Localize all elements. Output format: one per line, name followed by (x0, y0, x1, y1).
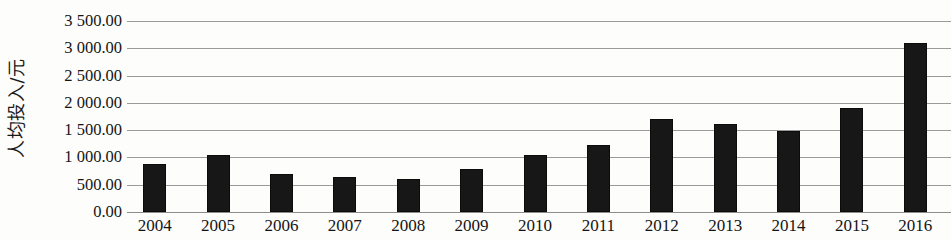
gridline (127, 21, 951, 22)
bar (650, 119, 673, 212)
bar (714, 124, 737, 212)
x-tick-label: 2014 (772, 215, 806, 237)
bar (904, 43, 927, 212)
bar (524, 155, 547, 212)
y-tick-label: 3 500.00 (26, 13, 122, 30)
bar (777, 131, 800, 212)
x-tick-label: 2005 (201, 215, 235, 237)
y-tick-label: 0.00 (26, 204, 122, 221)
bar (460, 169, 483, 212)
bar (143, 164, 166, 212)
x-tick-label: 2011 (582, 215, 615, 237)
gridline (127, 130, 951, 131)
x-tick-label: 2013 (708, 215, 742, 237)
y-axis-title-text: 人均投入/元 (2, 58, 28, 157)
y-tick-label: 2 000.00 (26, 95, 122, 112)
x-tick-label: 2015 (835, 215, 869, 237)
gridline (127, 76, 951, 77)
x-tick-label: 2010 (518, 215, 552, 237)
plot-area (127, 0, 951, 215)
gridline (127, 103, 951, 104)
y-axis-tick-labels: 0.00500.001 000.001 500.002 000.002 500.… (26, 0, 122, 215)
y-tick-label: 500.00 (26, 176, 122, 193)
x-axis-tick-labels: 2004200520062007200820092010201120122013… (127, 213, 951, 240)
x-tick-label: 2009 (455, 215, 489, 237)
x-tick-label: 2006 (264, 215, 298, 237)
bar (587, 145, 610, 212)
bar (333, 177, 356, 212)
y-tick-label: 1 500.00 (26, 122, 122, 139)
x-tick-label: 2004 (138, 215, 172, 237)
bar (397, 179, 420, 212)
y-tick-label: 1 000.00 (26, 149, 122, 166)
bar (270, 174, 293, 212)
gridline (127, 48, 951, 49)
y-tick-label: 2 500.00 (26, 67, 122, 84)
x-tick-label: 2016 (898, 215, 932, 237)
x-tick-label: 2008 (391, 215, 425, 237)
bar (207, 155, 230, 212)
x-tick-label: 2007 (328, 215, 362, 237)
bar (840, 108, 863, 212)
y-tick-label: 3 000.00 (26, 40, 122, 57)
x-tick-label: 2012 (645, 215, 679, 237)
bar-chart: 人均投入/元 0.00500.001 000.001 500.002 000.0… (0, 0, 951, 240)
